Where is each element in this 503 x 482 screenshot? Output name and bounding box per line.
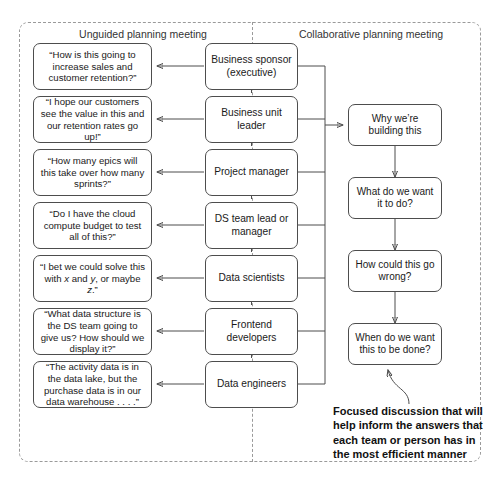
role-box-ds-team-lead: DS team lead or manager [205,202,298,249]
role-box-business-sponsor: Business sponsor (executive) [205,43,298,90]
quote-box: “I hope our customers see the value in t… [33,96,152,143]
column-title-unguided: Unguided planning meeting [53,28,233,40]
collab-question-what: What do we want it to do? [348,177,442,219]
quote-box: “How many epics will this take over how … [33,149,152,196]
diagram-canvas: Unguided planning meeting Collaborative … [0,0,503,482]
column-title-collaborative: Collaborative planning meeting [271,28,471,40]
quote-text-with-variables: “I bet we could solve this with x and y,… [39,261,146,296]
role-box-data-scientists: Data scientists [205,255,298,302]
quote-box: “Do I have the cloud compute budget to t… [33,202,152,249]
quote-box: “What data structure is the DS team goin… [33,308,152,355]
collab-question-why: Why we’re building this [348,104,442,146]
role-box-frontend-developers: Frontend developers [205,308,298,355]
focused-discussion-caption: Focused discussion that will help inform… [333,404,485,461]
role-box-business-unit-leader: Business unit leader [205,96,298,143]
collab-question-how-wrong: How could this go wrong? [348,250,442,292]
collab-question-when: When do we want this to be done? [348,323,442,365]
quote-box: “The activity data is in the data lake, … [33,361,152,408]
quote-box: “How is this going to increase sales and… [33,43,152,90]
quote-box: “I bet we could solve this with x and y,… [33,255,152,302]
role-box-data-engineers: Data engineers [205,361,298,408]
role-box-project-manager: Project manager [205,149,298,196]
